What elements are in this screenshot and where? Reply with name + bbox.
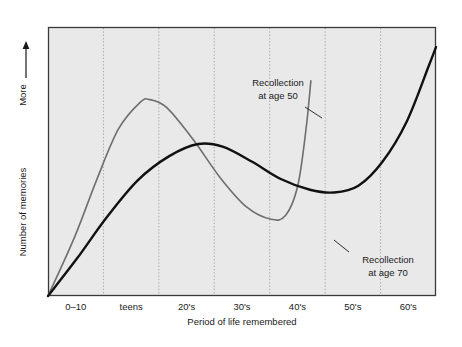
x-axis-title: Period of life remembered: [187, 316, 296, 327]
x-tick-label: 40's: [289, 301, 306, 312]
x-tick-label: 0–10: [65, 301, 86, 312]
recollection-age-70-line2: at age 70: [368, 267, 408, 278]
x-tick-label: teens: [120, 301, 143, 312]
x-tick-label: 20's: [178, 301, 195, 312]
y-axis-title: Number of memories: [17, 167, 28, 256]
chart-page: Recollection at age 50 Recollection at a…: [0, 0, 462, 347]
memory-recollection-chart: Recollection at age 50 Recollection at a…: [0, 0, 462, 347]
recollection-age-70-line1: Recollection: [362, 254, 414, 265]
x-tick-label: 60's: [400, 301, 417, 312]
recollection-age-50-line2: at age 50: [258, 90, 298, 101]
x-tick-label: 50's: [344, 301, 361, 312]
y-axis-more-label: More: [17, 84, 28, 106]
recollection-age-50-line1: Recollection: [252, 77, 304, 88]
x-tick-label: 30's: [233, 301, 250, 312]
